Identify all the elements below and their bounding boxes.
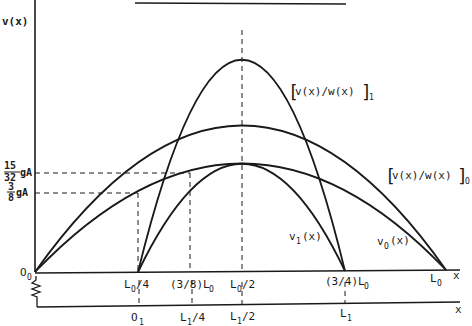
svg-text:1: 1	[347, 314, 352, 323]
svg-text:(3/4)L: (3/4)L	[325, 275, 365, 288]
svg-text:3: 3	[8, 181, 14, 192]
svg-text:(x): (x)	[390, 234, 410, 247]
x-axis-label: x	[453, 269, 460, 282]
svg-text:O: O	[27, 273, 32, 282]
label-v1: v 1 (x)	[289, 230, 322, 246]
svg-text:gA: gA	[20, 167, 32, 178]
top-rule	[135, 3, 346, 4]
label-ratio-0: [ v(x)/w(x) ] O	[385, 165, 470, 186]
y-axis-label: v(x)	[2, 15, 29, 28]
origin-label: O O	[20, 266, 32, 282]
spring-icon	[32, 276, 40, 307]
svg-text:8: 8	[8, 192, 14, 203]
svg-text:O: O	[209, 285, 214, 294]
lower-x-axis-label: x	[455, 303, 462, 316]
svg-text:O: O	[20, 266, 27, 279]
svg-text:/4: /4	[192, 311, 206, 324]
svg-text:v(x)/w(x): v(x)/w(x)	[392, 169, 452, 182]
y-tick-3-8: 3 8 gA	[7, 181, 28, 203]
upper-x-axis	[35, 270, 460, 273]
svg-text:L: L	[230, 278, 237, 291]
svg-text:v(x)/w(x): v(x)/w(x)	[295, 85, 355, 98]
label-ratio-1: [ v(x)/w(x) ] 1	[288, 81, 374, 102]
tick-l1-label: L 1	[340, 307, 352, 323]
svg-text:O: O	[364, 282, 369, 291]
svg-text:(3/8)L: (3/8)L	[170, 278, 210, 291]
svg-text:15: 15	[4, 160, 16, 171]
tick-o1-label: O 1	[131, 311, 144, 326]
svg-text:v: v	[377, 235, 384, 248]
svg-text:gA: gA	[16, 187, 28, 198]
svg-text:L: L	[430, 272, 437, 285]
tick-l1-quarter-label: L 1 /4	[180, 311, 206, 326]
y-tick-15-32: 15 32 gA	[4, 160, 32, 183]
svg-text:O: O	[465, 177, 470, 186]
svg-text:O: O	[384, 242, 389, 251]
svg-text:/4: /4	[136, 278, 150, 291]
svg-text:1: 1	[369, 93, 374, 102]
svg-text:(x): (x)	[302, 230, 322, 243]
svg-text:O: O	[131, 311, 138, 324]
svg-text:/2: /2	[242, 278, 255, 291]
svg-text:L: L	[340, 307, 347, 320]
beam-diagram: v(x) 15 32 gA 3 8 gA O O L O /4 (3/8)L O…	[0, 0, 472, 326]
tick-3-4-lo: (3/4)L O	[325, 275, 369, 291]
svg-text:L: L	[180, 311, 187, 324]
tick-lo-quarter: L O /4	[124, 278, 150, 294]
svg-text:/2: /2	[242, 310, 255, 323]
svg-text:L: L	[230, 310, 237, 323]
svg-text:L: L	[124, 278, 131, 291]
tick-lo-half: L O /2	[230, 278, 255, 294]
tick-l1-half-label: L 1 /2	[230, 310, 255, 326]
svg-text:v: v	[289, 230, 296, 243]
svg-text:1: 1	[139, 318, 144, 326]
svg-text:1: 1	[296, 237, 301, 246]
svg-text:O: O	[437, 279, 442, 288]
lower-x-axis	[37, 302, 460, 307]
label-v0: v O (x)	[377, 234, 410, 251]
tick-lo: L O	[430, 272, 442, 288]
